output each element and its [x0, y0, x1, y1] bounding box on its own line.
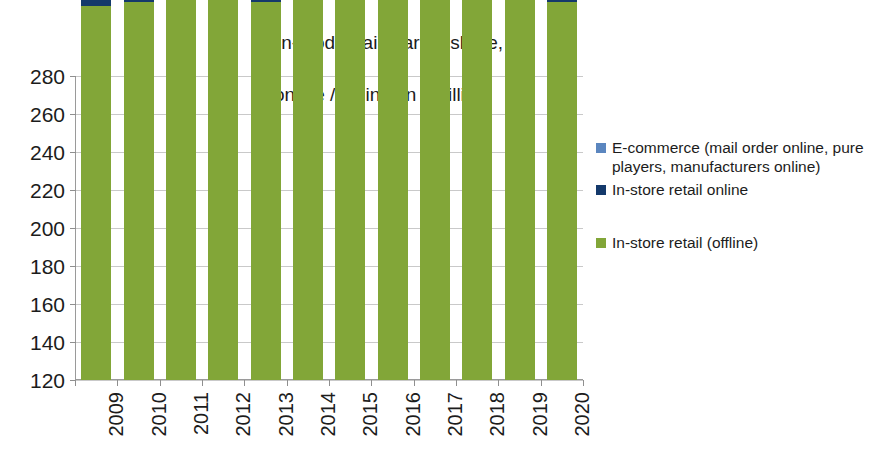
y-axis-label-260: 260	[30, 104, 65, 125]
bar-2016[interactable]	[378, 76, 408, 380]
x-tick-8	[414, 380, 415, 386]
bar-2017[interactable]	[420, 76, 450, 380]
x-tick-end	[583, 380, 584, 386]
bar-segment-offline-2018[interactable]	[462, 0, 492, 380]
bar-segment-offline-2020[interactable]	[547, 2, 577, 380]
bar-segment-offline-2013[interactable]	[251, 2, 281, 380]
x-axis-label-2019: 2019	[530, 392, 550, 437]
y-axis-label-240: 240	[30, 142, 65, 163]
bar-2014[interactable]	[293, 76, 323, 380]
bar-2018[interactable]	[462, 76, 492, 380]
bar-segment-offline-2009[interactable]	[81, 6, 111, 380]
x-axis-label-2015: 2015	[360, 392, 380, 437]
y-tick-160	[70, 304, 76, 305]
x-axis-label-2016: 2016	[403, 392, 423, 437]
x-tick-10	[498, 380, 499, 386]
bar-segment-offline-2012[interactable]	[208, 0, 238, 380]
x-axis-label-2012: 2012	[233, 392, 253, 437]
x-tick-11	[541, 380, 542, 386]
y-tick-200	[70, 228, 76, 229]
bar-segment-offline-2014[interactable]	[293, 0, 323, 380]
legend-item-instore-online[interactable]: In-store retail online	[596, 180, 864, 199]
bar-segment-instore-online-2013[interactable]	[251, 0, 281, 2]
x-tick-7	[371, 380, 372, 386]
y-axis-label-140: 140	[30, 332, 65, 353]
legend-spacer	[596, 203, 864, 233]
x-tick-2	[160, 380, 161, 386]
bar-segment-offline-2019[interactable]	[505, 0, 535, 380]
x-tick-6	[329, 380, 330, 386]
bar-segment-offline-2017[interactable]	[420, 0, 450, 380]
bar-segment-instore-online-2020[interactable]	[547, 0, 577, 2]
y-axis-label-280: 280	[30, 66, 65, 87]
x-tick-3	[202, 380, 203, 386]
bar-2020[interactable]	[547, 76, 577, 380]
bar-2015[interactable]	[335, 76, 365, 380]
legend-swatch-icon	[596, 143, 606, 153]
bar-segment-offline-2015[interactable]	[335, 0, 365, 380]
x-tick-1	[117, 380, 118, 386]
bar-2010[interactable]	[124, 76, 154, 380]
x-axis-label-2009: 2009	[106, 392, 126, 437]
legend-label: In-store retail online	[612, 180, 748, 199]
x-tick-5	[287, 380, 288, 386]
legend-swatch-icon	[596, 238, 606, 248]
y-tick-180	[70, 266, 76, 267]
legend-label: E-commerce (mail order online, pure play…	[612, 138, 864, 176]
x-tick-0	[75, 380, 76, 386]
y-tick-140	[70, 342, 76, 343]
legend-swatch-icon	[596, 185, 606, 195]
bar-segment-offline-2016[interactable]	[378, 0, 408, 380]
bar-segment-offline-2011[interactable]	[166, 0, 196, 380]
y-axis-label-120: 120	[30, 370, 65, 391]
y-tick-280	[70, 76, 76, 77]
x-tick-9	[456, 380, 457, 386]
x-axis-label-2013: 2013	[276, 392, 296, 437]
legend-item-ecommerce[interactable]: E-commerce (mail order online, pure play…	[596, 138, 864, 176]
chart-root: Non-food retail market share, online / o…	[0, 0, 870, 465]
x-tick-4	[244, 380, 245, 386]
bar-segment-offline-2010[interactable]	[124, 2, 154, 380]
legend-label: In-store retail (offline)	[612, 233, 758, 252]
x-axis-label-2017: 2017	[445, 392, 465, 437]
x-axis-label-2014: 2014	[318, 392, 338, 437]
y-axis-label-220: 220	[30, 180, 65, 201]
bar-2009[interactable]	[81, 76, 111, 380]
chart-legend: E-commerce (mail order online, pure play…	[596, 138, 864, 256]
plot-area: 280260240220200180160140120	[75, 76, 583, 380]
y-tick-240	[70, 152, 76, 153]
bar-2012[interactable]	[208, 76, 238, 380]
x-axis-label-2010: 2010	[149, 392, 169, 437]
bar-2019[interactable]	[505, 76, 535, 380]
bar-2011[interactable]	[166, 76, 196, 380]
x-axis-label-2011: 2011	[191, 392, 211, 435]
y-axis-label-180: 180	[30, 256, 65, 277]
legend-item-instore-offline[interactable]: In-store retail (offline)	[596, 233, 864, 252]
y-tick-260	[70, 114, 76, 115]
y-tick-220	[70, 190, 76, 191]
x-axis-label-2018: 2018	[487, 392, 507, 437]
bar-segment-instore-online-2010[interactable]	[124, 0, 154, 2]
y-axis-label-200: 200	[30, 218, 65, 239]
y-axis-label-160: 160	[30, 294, 65, 315]
x-axis-label-2020: 2020	[572, 392, 592, 437]
bar-2013[interactable]	[251, 76, 281, 380]
bar-segment-instore-online-2009[interactable]	[81, 0, 111, 6]
